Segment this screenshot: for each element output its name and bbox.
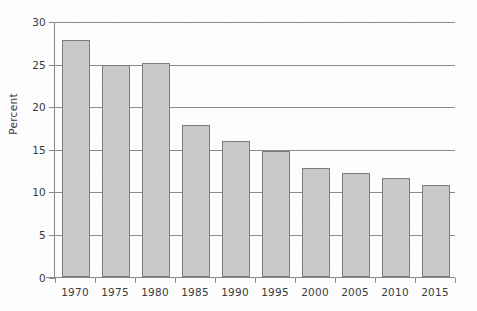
gridline [55, 22, 455, 23]
x-tick-label: 1975 [93, 286, 137, 298]
bar [182, 125, 210, 277]
bar [302, 168, 330, 278]
y-tick-label: 25 [22, 59, 46, 71]
x-tick-label: 1980 [133, 286, 177, 298]
y-tick-label: 10 [22, 186, 46, 198]
y-tick-label: 5 [22, 229, 46, 241]
x-tick-mark [55, 278, 56, 283]
y-tick-label: 30 [22, 16, 46, 28]
y-tick-label: 20 [22, 101, 46, 113]
y-tick-label-text: 25 [32, 59, 46, 71]
y-tick-label-text: 20 [32, 101, 46, 113]
y-axis-title: Percent [7, 59, 19, 169]
x-tick-label: 2005 [333, 286, 377, 298]
x-tick-label: 2010 [373, 286, 417, 298]
y-tick-label: 15 [22, 144, 46, 156]
y-tick-label-text: 5 [39, 229, 46, 241]
x-tick-mark [215, 278, 216, 283]
bar [422, 185, 450, 278]
bar [222, 141, 250, 277]
bar [382, 178, 410, 278]
y-tick-label-text: 15 [32, 144, 46, 156]
x-tick-mark [135, 278, 136, 283]
y-tick-label-text: 0 [39, 272, 46, 284]
x-tick-mark [415, 278, 416, 283]
x-tick-label: 2015 [413, 286, 457, 298]
bar-chart: Percent 051015202530 1970197519801985199… [0, 0, 477, 311]
x-tick-mark [255, 278, 256, 283]
bar [262, 151, 290, 277]
x-tick-label: 1990 [213, 286, 257, 298]
bar [62, 40, 90, 278]
bar [142, 63, 170, 278]
x-tick-mark [455, 278, 456, 283]
x-tick-mark [335, 278, 336, 283]
x-tick-mark [295, 278, 296, 283]
bar [342, 173, 370, 278]
x-tick-label: 2000 [293, 286, 337, 298]
x-tick-mark [175, 278, 176, 283]
y-tick-label-text: 10 [32, 186, 46, 198]
x-tick-label: 1985 [173, 286, 217, 298]
y-tick-label: 0 [22, 272, 46, 284]
plot-area [55, 22, 455, 278]
x-tick-label: 1995 [253, 286, 297, 298]
bar [102, 65, 130, 278]
y-tick-label-text: 30 [32, 16, 46, 28]
x-tick-mark [95, 278, 96, 283]
x-tick-mark [375, 278, 376, 283]
x-tick-label: 1970 [53, 286, 97, 298]
